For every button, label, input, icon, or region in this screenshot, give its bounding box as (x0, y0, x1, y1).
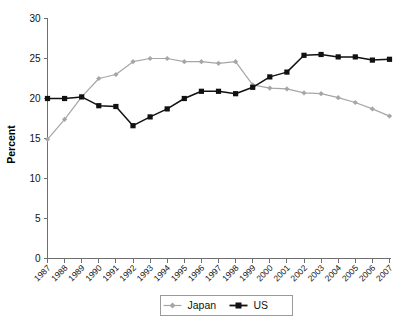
data-point-us (284, 70, 289, 75)
x-tick-label: 1995 (169, 263, 190, 284)
y-tick-label: 5 (35, 213, 41, 224)
x-tick-label: 2006 (357, 263, 378, 284)
data-point-us (148, 114, 153, 119)
y-tick-label: 30 (29, 13, 41, 24)
x-tick-label: 2004 (323, 263, 344, 284)
data-point-japan (267, 86, 272, 91)
data-point-us (79, 94, 84, 99)
data-point-us (370, 58, 375, 63)
x-tick-label: 1992 (117, 263, 138, 284)
data-point-japan (165, 56, 170, 61)
data-point-japan (336, 95, 341, 100)
data-point-us (165, 106, 170, 111)
chart-container: 051015202530Percent198719881989199019911… (0, 0, 406, 323)
x-tick-label: 2000 (254, 263, 275, 284)
data-point-japan (353, 100, 358, 105)
data-point-us (182, 96, 187, 101)
data-point-japan (216, 61, 221, 66)
data-point-us (62, 96, 67, 101)
data-point-us (336, 54, 341, 59)
legend-label-japan: Japan (188, 299, 217, 311)
data-point-us (130, 123, 135, 128)
data-point-japan (319, 91, 324, 96)
y-axis-title: Percent (5, 125, 17, 164)
data-point-japan (370, 106, 375, 111)
data-point-japan (387, 114, 392, 119)
data-point-japan (301, 90, 306, 95)
x-tick-label: 1998 (220, 263, 241, 284)
x-tick-label: 1994 (152, 263, 173, 284)
data-point-us (267, 74, 272, 79)
x-tick-label: 2005 (340, 263, 361, 284)
data-point-us (387, 57, 392, 62)
x-tick-label: 1989 (66, 263, 87, 284)
data-point-japan (284, 86, 289, 91)
data-point-us (199, 89, 204, 94)
x-tick-label: 2003 (306, 263, 327, 284)
x-tick-label: 1999 (237, 263, 258, 284)
data-point-us (96, 103, 101, 108)
data-point-japan (199, 59, 204, 64)
data-point-us (233, 91, 238, 96)
y-tick-label: 10 (29, 173, 41, 184)
y-tick-label: 0 (35, 253, 41, 264)
data-point-japan (182, 59, 187, 64)
data-point-us (353, 54, 358, 59)
legend-marker-us (236, 303, 242, 309)
data-point-us (301, 53, 306, 58)
x-tick-label: 1996 (186, 263, 207, 284)
y-tick-label: 20 (29, 93, 41, 104)
legend-label-us: US (254, 299, 269, 311)
x-tick-label: 2001 (271, 263, 292, 284)
line-chart-plot: 051015202530Percent198719881989199019911… (0, 0, 406, 323)
x-tick-label: 2002 (288, 263, 309, 284)
x-tick-label: 1991 (100, 263, 121, 284)
y-tick-label: 15 (29, 133, 41, 144)
x-tick-label: 1993 (135, 263, 156, 284)
x-tick-label: 1987 (32, 263, 53, 284)
x-tick-label: 1997 (203, 263, 224, 284)
x-tick-label: 1988 (49, 263, 70, 284)
data-point-us (216, 89, 221, 94)
data-point-japan (148, 56, 153, 61)
data-point-us (319, 52, 324, 57)
x-tick-label: 2007 (374, 263, 395, 284)
y-tick-label: 25 (29, 53, 41, 64)
x-tick-label: 1990 (83, 263, 104, 284)
data-point-us (45, 96, 50, 101)
data-point-us (113, 104, 118, 109)
data-point-us (250, 85, 255, 90)
